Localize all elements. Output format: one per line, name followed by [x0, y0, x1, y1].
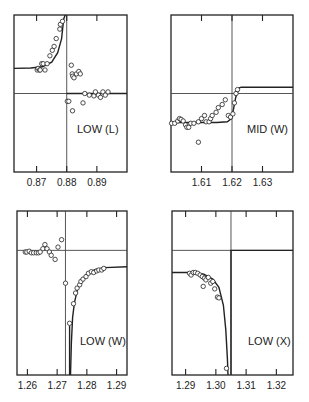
data-point	[214, 110, 218, 114]
data-point	[59, 238, 63, 242]
data-point	[232, 101, 236, 105]
data-point	[224, 366, 228, 370]
panel-label: MID (W)	[247, 123, 288, 135]
x-tick-label: 1.62	[222, 177, 242, 188]
data-point	[69, 63, 73, 67]
data-point	[43, 242, 47, 246]
panel-label: LOW (W)	[80, 335, 126, 347]
data-point	[54, 36, 58, 40]
x-tick-label: 0.89	[87, 177, 107, 188]
panel-label: LOW (X)	[248, 335, 291, 347]
data-point	[38, 68, 42, 72]
x-tick-label: 0.87	[27, 177, 47, 188]
data-point	[52, 44, 56, 48]
data-point	[201, 284, 205, 288]
x-tick-label: 1.29	[107, 380, 127, 391]
x-tick-label: 1.63	[253, 177, 273, 188]
x-tick-label: 1.31	[236, 380, 256, 391]
data-point	[56, 245, 60, 249]
data-point	[206, 275, 210, 279]
x-tick-label: 1.32	[267, 380, 287, 391]
data-point	[48, 54, 52, 58]
plot-frame	[172, 211, 293, 375]
panel-low-x: 1.291.301.311.32LOW (X)	[172, 211, 293, 391]
data-point	[43, 68, 47, 72]
data-point	[220, 102, 224, 106]
plot-frame	[17, 211, 127, 375]
plot-svg: 0.870.880.89LOW (L)1.611.621.63MID (W)1.…	[0, 0, 309, 402]
figure: 0.870.880.89LOW (L)1.611.621.63MID (W)1.…	[0, 0, 309, 402]
fit-curve	[14, 15, 65, 68]
data-point	[45, 62, 49, 66]
data-point	[78, 72, 82, 76]
panel-low-w: 1.261.271.281.29LOW (W)	[17, 211, 127, 391]
data-point	[213, 287, 217, 291]
data-point	[58, 27, 62, 31]
x-tick-label: 1.61	[192, 177, 212, 188]
x-tick-label: 1.30	[206, 380, 226, 391]
data-point	[210, 113, 214, 117]
data-point	[211, 279, 215, 283]
fit-curve	[172, 273, 228, 376]
data-point	[235, 87, 239, 91]
data-point	[49, 253, 53, 257]
data-point	[67, 321, 71, 325]
data-point	[217, 296, 221, 300]
data-point	[223, 98, 227, 102]
data-point	[63, 281, 67, 285]
x-tick-label: 1.27	[47, 380, 67, 391]
data-point	[81, 101, 85, 105]
data-point	[98, 95, 102, 99]
data-point	[67, 99, 71, 103]
data-point	[216, 105, 220, 109]
x-tick-label: 1.26	[18, 380, 38, 391]
panel-mid-w: 1.611.621.63MID (W)	[169, 15, 293, 188]
data-point	[83, 91, 87, 95]
x-tick-label: 0.88	[57, 177, 77, 188]
data-point	[53, 257, 57, 261]
x-tick-label: 1.28	[77, 380, 97, 391]
fit-curve	[231, 250, 293, 375]
data-point	[231, 112, 235, 116]
panel-label: LOW (L)	[77, 123, 119, 135]
data-point	[73, 291, 77, 295]
data-point	[102, 266, 106, 270]
data-point	[202, 113, 206, 117]
panel-low-l: 0.870.880.89LOW (L)	[14, 15, 127, 188]
x-tick-label: 1.29	[176, 380, 196, 391]
data-point	[71, 302, 75, 306]
data-point	[196, 140, 200, 144]
data-point	[60, 19, 64, 23]
data-point	[70, 109, 74, 113]
data-point	[192, 121, 196, 125]
data-point	[106, 90, 110, 94]
data-point	[87, 93, 91, 97]
